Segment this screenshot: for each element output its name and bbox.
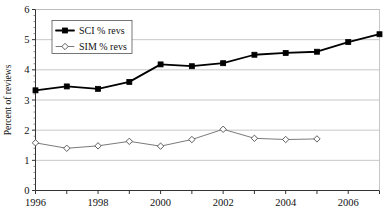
- x-tick-label-2000: 2000: [150, 197, 171, 208]
- chart-container: 0123456 199619982000200220042006 Percent…: [0, 0, 384, 217]
- y-tick-label-2: 2: [24, 125, 29, 136]
- sci-point-2005: [314, 49, 319, 54]
- y-axis-title-text: Percent of reviews: [3, 64, 13, 135]
- y-tick-label-1: 1: [24, 155, 29, 166]
- x-axis-tick-labels: 199619982000200220042006: [25, 197, 359, 208]
- sim-point-1997: [64, 145, 70, 151]
- y-tick-label-5: 5: [24, 34, 29, 45]
- y-axis-ticks: [32, 10, 36, 191]
- sim-point-2004: [282, 136, 288, 142]
- sim-point-1996: [32, 140, 38, 146]
- y-tick-label-6: 6: [24, 4, 29, 15]
- sci-point-2003: [252, 52, 257, 57]
- x-tick-label-1996: 1996: [25, 197, 46, 208]
- y-tick-label-4: 4: [24, 64, 30, 75]
- y-tick-label-3: 3: [24, 95, 29, 106]
- sci-point-2000: [158, 62, 163, 67]
- sci-point-1996: [33, 88, 38, 93]
- sim-point-2003: [251, 135, 257, 141]
- line-chart: 0123456 199619982000200220042006 Percent…: [0, 0, 384, 217]
- sim-point-2005: [314, 136, 320, 142]
- y-tick-label-0: 0: [24, 185, 29, 196]
- x-tick-label-2002: 2002: [213, 197, 234, 208]
- y-axis-title: Percent of reviews: [3, 64, 13, 135]
- chart-legend: SCI % revsSIM % revs: [52, 21, 132, 54]
- legend-label-sci: SCI % revs: [79, 25, 125, 36]
- sim-line-path: [36, 129, 317, 148]
- x-tick-label-2006: 2006: [338, 197, 359, 208]
- sci-point-2001: [189, 64, 194, 69]
- sim-point-2001: [189, 136, 195, 142]
- sim-point-1999: [126, 138, 132, 144]
- x-axis-ticks: [36, 191, 380, 195]
- x-tick-label-2004: 2004: [275, 197, 297, 208]
- sim-point-2000: [157, 143, 163, 149]
- sci-point-2002: [221, 61, 226, 66]
- sim-point-2002: [220, 126, 226, 132]
- sci-point-2007: [377, 32, 382, 37]
- sim-point-1998: [95, 143, 101, 149]
- sci-point-2004: [283, 50, 288, 55]
- sci-point-1999: [127, 79, 132, 84]
- sci-point-2006: [346, 40, 351, 45]
- x-tick-label-1998: 1998: [88, 197, 109, 208]
- sci-point-1998: [96, 86, 101, 91]
- legend-label-sim: SIM % revs: [79, 41, 127, 52]
- y-axis-tick-labels: 0123456: [24, 4, 30, 196]
- sci-point-1997: [64, 84, 69, 89]
- legend-marker-square-icon: [63, 28, 68, 33]
